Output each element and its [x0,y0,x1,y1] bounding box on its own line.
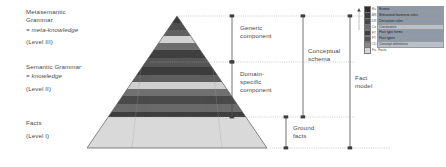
legend-row: FaFacts [364,48,444,53]
bracket-ground-facts [284,115,289,149]
annotation-domain-specific-component: Domain- specific component [240,70,276,94]
label-metasemantic-equals: = meta-knowledge [26,26,108,34]
legend-row: CDConcept definitions [364,42,444,47]
annotation-ground-facts: Ground facts [293,124,333,140]
bracket-fact-model [348,14,353,149]
band-mid-b [60,89,390,96]
band-constraints [60,36,390,43]
legend-swatch-icon [364,47,371,53]
band-mid-c [60,104,390,112]
pyramid-bands [60,14,390,149]
bracket-conceptual-schema [301,14,306,118]
band-concept-definitions [60,82,390,89]
legend-row-label: Facts [377,48,444,53]
annotation-conceptual-schema: Conceptual schema [308,47,352,63]
label-level-two: (Level II) [26,85,86,93]
label-facts: Facts [26,119,86,127]
label-metasemantic-grammar: Metasemantic Grammar [26,8,104,24]
band-ground-facts [60,117,390,149]
band-events [60,14,390,23]
band-derivation-rules [60,30,390,36]
band-behavioral-business-rules [60,23,390,30]
bracket-generic-component [230,14,235,63]
label-level-one: (Level I) [26,132,86,140]
annotation-generic-component: Generic component [240,24,290,40]
legend-connector-arrow [357,8,361,11]
label-semantic-grammar: Semantic Grammar [26,63,112,71]
label-semantic-equals: = knowledge [26,72,98,80]
legend: EvEventsBRBehavioral business rulesDRDer… [364,7,444,54]
band-dark-b [60,96,390,104]
band-mid-a [60,75,390,82]
annotation-fact-model: Fact model [355,74,387,90]
label-level-three: (Level III) [26,38,86,46]
